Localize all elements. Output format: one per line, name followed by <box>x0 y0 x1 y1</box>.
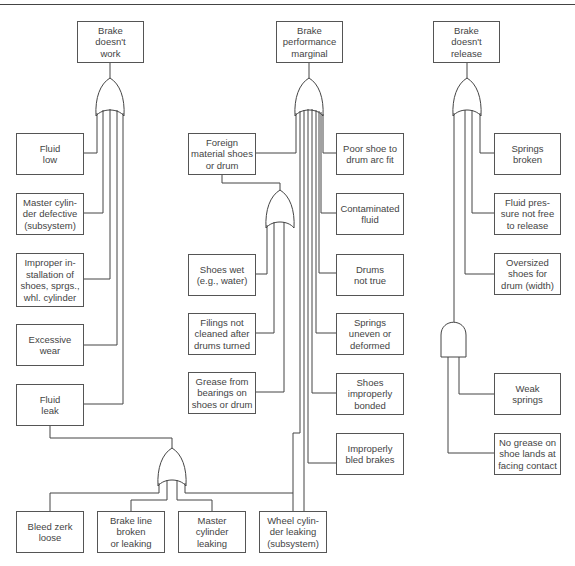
event-excessive-wear: Excessive wear <box>16 324 84 366</box>
top-event-brake-doesnt-work: Brake doesn't work <box>77 21 144 63</box>
event-wheel-cylinder-leaking: Wheel cylin- der leaking (subsystem) <box>259 511 327 553</box>
event-weak-springs: Weak springs <box>494 373 561 415</box>
top-event-brake-doesnt-release: Brake doesn't release <box>433 21 500 63</box>
event-filings-not-cleaned: Filings not cleaned after drums turned <box>188 313 256 355</box>
top-event-brake-performance-marginal: Brake performance marginal <box>276 21 343 63</box>
event-improperly-bled-brakes: Improperly bled brakes <box>336 433 404 475</box>
event-improper-installation: Improper in- stallation of shoes, sprgs.… <box>16 253 84 307</box>
event-springs-broken: Springs broken <box>494 133 561 175</box>
event-fluid-leak: Fluid leak <box>16 384 84 426</box>
event-oversized-shoes: Oversized shoes for drum (width) <box>494 253 561 295</box>
event-shoes-improperly-bonded: Shoes improperly bonded <box>336 373 404 415</box>
event-foreign-material: Foreign material shoes or drum <box>188 133 256 175</box>
or-gate-icon <box>158 448 186 486</box>
or-gate-icon <box>266 190 294 228</box>
or-gate-icon <box>453 78 481 116</box>
event-fluid-pressure-not-free: Fluid pres- sure not free to release <box>494 193 561 235</box>
event-drums-not-true: Drums not true <box>336 254 404 296</box>
event-brake-line-broken: Brake line broken or leaking <box>97 511 165 553</box>
event-contaminated-fluid: Contaminated fluid <box>336 193 404 235</box>
event-springs-uneven: Springs uneven or deformed <box>336 313 404 355</box>
fault-tree-connectors <box>0 0 575 566</box>
and-gate-icon <box>441 322 466 357</box>
or-gate-icon <box>295 78 323 116</box>
event-master-cylinder-defective: Master cylin- der defective (subsystem) <box>16 193 84 235</box>
event-bleed-zerk-loose: Bleed zerk loose <box>16 511 84 553</box>
event-shoes-wet: Shoes wet (e.g., water) <box>188 254 256 296</box>
event-poor-shoe-fit: Poor shoe to drum arc fit <box>336 133 404 175</box>
event-no-grease-on-shoe-lands: No grease on shoe lands at facing contac… <box>494 433 561 475</box>
event-master-cylinder-leaking: Master cylinder leaking <box>178 511 246 553</box>
event-grease-from-bearings: Grease from bearings on shoes or drum <box>188 372 256 414</box>
event-fluid-low: Fluid low <box>16 133 84 175</box>
